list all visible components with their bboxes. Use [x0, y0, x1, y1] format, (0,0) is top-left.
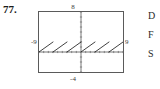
window-xmin-label: -9 [31, 38, 37, 46]
adjacent-text-line: D [148, 6, 160, 25]
calculator-figure: 8 -4 -9 9 [30, 2, 132, 87]
window-ymax-label: 8 [71, 3, 75, 11]
figure-page: 77. 8 -4 -9 9 D F S [0, 0, 160, 89]
adjacent-text-column: D F S [148, 6, 160, 63]
adjacent-text-line: F [148, 25, 160, 44]
adjacent-text-line: S [148, 44, 160, 63]
calculator-screen [38, 11, 124, 73]
sawtooth-plot [39, 12, 123, 72]
window-xmax-label: 9 [125, 38, 129, 46]
window-ymin-label: -4 [70, 75, 76, 83]
exercise-number: 77. [3, 3, 17, 15]
